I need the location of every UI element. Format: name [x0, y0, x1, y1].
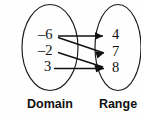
domain-element-2: 3 [44, 58, 51, 74]
domain-element-0: –6 [37, 26, 53, 42]
domain-element-1: –2 [37, 42, 53, 58]
mapping-diagram: –6 –2 3 4 7 8 Domain Range [0, 0, 141, 117]
domain-label: Domain [27, 97, 73, 111]
range-element-0: 4 [112, 26, 120, 42]
arrowhead-neg6-to-4 [95, 32, 103, 40]
mapping-diagram-canvas: –6 –2 3 4 7 8 Domain Range [0, 0, 141, 117]
range-element-2: 8 [112, 59, 119, 75]
range-element-1: 7 [112, 43, 119, 59]
range-label: Range [99, 97, 137, 111]
mapping-line-neg6-to-7 [58, 38, 104, 54]
